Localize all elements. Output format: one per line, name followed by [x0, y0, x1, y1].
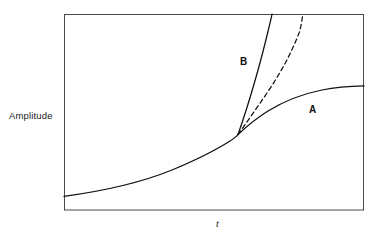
curve-label-a: A: [309, 104, 316, 115]
plot-svg: [0, 0, 380, 237]
y-axis-label: Amplitude: [9, 110, 53, 121]
chart-figure: Amplitude t B A: [0, 0, 380, 237]
curve-label-b: B: [240, 56, 247, 67]
x-axis-label: t: [216, 218, 219, 229]
plot-frame: [65, 15, 364, 211]
